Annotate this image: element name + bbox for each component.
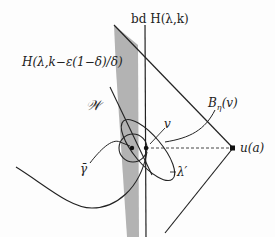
ball-leader: [165, 110, 215, 142]
diagram-canvas: bd H(λ,k) H(λ,k−ε(1−δ)/δ) 𝒲 Bη(v) v u(a)…: [0, 0, 275, 237]
label-set-w: 𝒲: [86, 98, 101, 112]
label-ball: Bη(v): [208, 97, 238, 112]
label-lambda-prime: λ′: [177, 166, 187, 178]
label-boundary: bd H(λ,k): [131, 13, 189, 25]
label-halfspace: H(λ,k−ε(1−δ)/δ): [22, 56, 123, 68]
diagram-graphics: [0, 0, 275, 237]
point-v: [144, 146, 148, 150]
label-gamma-bar: γ̄: [80, 163, 87, 175]
cone-lower-edge: [165, 148, 233, 233]
label-u: u(a): [240, 142, 264, 154]
v-leader: [150, 128, 165, 144]
ball-main: B: [208, 96, 217, 110]
label-v: v: [164, 118, 171, 130]
ball-arg: (v): [222, 96, 238, 110]
point-u: [230, 146, 235, 151]
point-center: [130, 146, 134, 150]
